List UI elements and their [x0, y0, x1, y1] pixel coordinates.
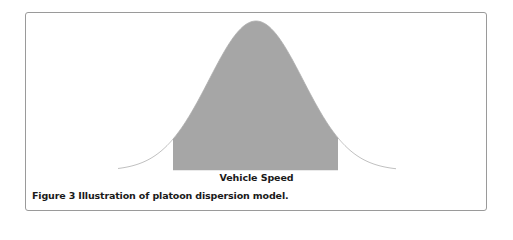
- shaded-speed-region: [118, 21, 396, 171]
- x-axis-label: Vehicle Speed: [0, 172, 513, 183]
- figure-caption: Figure 3 Illustration of platoon dispers…: [32, 190, 288, 201]
